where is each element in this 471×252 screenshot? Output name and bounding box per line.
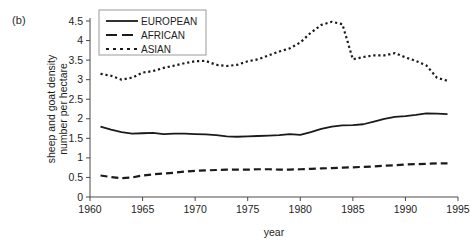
x-tick-label: 1960 — [78, 203, 102, 215]
y-tick-label: 1 — [77, 151, 83, 163]
y-tick-label: 4.5 — [68, 15, 83, 27]
x-axis-title: year — [264, 226, 285, 238]
y-axis-title-line1: sheep and goat density — [45, 54, 57, 163]
x-axis: 19601965197019751980198519901995 — [78, 197, 470, 215]
x-tick-label: 1985 — [341, 203, 365, 215]
y-tick-label: 0.5 — [68, 171, 83, 183]
chart-legend: EUROPEANAFRICANASIAN — [99, 10, 206, 55]
series-line-european — [101, 113, 448, 136]
x-tick-label: 1980 — [289, 203, 313, 215]
y-tick-label: 3.5 — [68, 54, 83, 66]
x-tick-label: 1995 — [446, 203, 470, 215]
series-line-african — [101, 163, 448, 178]
chart-figure: (b) 00.511.522.533.544.5 196019651970197… — [0, 0, 471, 252]
y-tick-label: 2 — [77, 112, 83, 124]
y-axis: 00.511.522.533.544.5 — [68, 15, 90, 203]
x-tick-label: 1990 — [394, 203, 418, 215]
y-tick-label: 1.5 — [68, 132, 83, 144]
y-tick-label: 2.5 — [68, 93, 83, 105]
x-tick-label: 1975 — [236, 203, 260, 215]
x-tick-label: 1970 — [183, 203, 207, 215]
y-tick-label: 0 — [77, 191, 83, 203]
legend-label-european: EUROPEAN — [141, 16, 197, 27]
legend-label-african: AFRICAN — [141, 30, 185, 41]
panel-label: (b) — [12, 14, 26, 26]
line-chart-svg: 00.511.522.533.544.5 1960196519701975198… — [0, 0, 471, 252]
x-tick-label: 1965 — [131, 203, 155, 215]
legend-label-asian: ASIAN — [141, 44, 171, 55]
y-tick-label: 4 — [77, 34, 83, 46]
y-tick-label: 3 — [77, 73, 83, 85]
y-axis-title-line2: number per hectare — [57, 63, 69, 155]
